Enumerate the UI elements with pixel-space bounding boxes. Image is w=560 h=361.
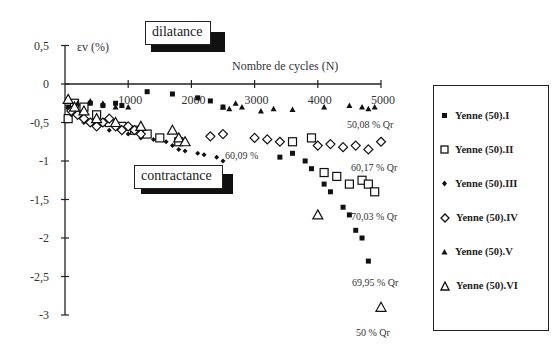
annotation-label: 69,95 % Qr (352, 277, 399, 288)
legend-label: Yenne (50).III (455, 178, 517, 189)
open-square-icon (440, 145, 449, 154)
y-tick-label: -1 (39, 154, 49, 168)
legend-item-3: Yenne (50).III (440, 178, 517, 189)
y-tick-label: -3 (39, 308, 49, 322)
data-points (63, 89, 386, 311)
annotation-label: 60,17 % Qr (351, 162, 398, 173)
filled-square-icon (440, 111, 449, 120)
legend-label: Yenne (50).IV (456, 212, 518, 223)
dilatance-label: dilatance (145, 21, 211, 45)
legend-label: Yenne (50).V (455, 246, 513, 257)
legend-label: Yenne (50).II (455, 144, 513, 155)
y-tick-label: -2 (39, 231, 49, 245)
open-triangle-icon (440, 281, 450, 291)
legend-item-5: Yenne (50).V (440, 246, 513, 257)
filled-triangle-icon (440, 247, 449, 256)
x-axis-title: Nombre de cycles (N) (232, 59, 338, 73)
annotation-label: 60,09 % (225, 150, 258, 161)
x-tick-label: 3000 (245, 93, 269, 107)
legend-label: Yenne (50).I (455, 110, 509, 121)
y-tick-label: -0,5 (30, 116, 49, 130)
legend-item-4: Yenne (50).IV (440, 212, 518, 223)
annotation-label: 50 % Qr (356, 327, 391, 338)
legend-item-2: Yenne (50).II (440, 144, 513, 155)
x-tick-label: 2000 (181, 93, 205, 107)
y-axis-title: εv (%) (77, 40, 109, 54)
filled-diamond-icon (440, 179, 449, 188)
legend: Yenne (50).I Yenne (50).II Yenne (50).II… (433, 85, 549, 331)
y-tick-label: 0,5 (34, 39, 49, 53)
annotations: 50,08 % Qr60,09 %60,17 % Qr70,03 % Qr69,… (225, 119, 399, 338)
contractance-label: contractance (134, 165, 223, 189)
y-tick-label: -2,5 (30, 270, 49, 284)
annotation-label: 70,03 % Qr (351, 211, 398, 222)
legend-item-6: Yenne (50).VI (440, 280, 518, 291)
open-diamond-icon (440, 213, 450, 223)
x-tick-label: 4000 (308, 93, 332, 107)
y-tick-label: -1,5 (30, 193, 49, 207)
legend-label: Yenne (50).VI (456, 280, 518, 291)
annotation-label: 50,08 % Qr (347, 119, 394, 130)
y-tick-label: 0 (43, 77, 49, 91)
legend-item-1: Yenne (50).I (440, 110, 509, 121)
